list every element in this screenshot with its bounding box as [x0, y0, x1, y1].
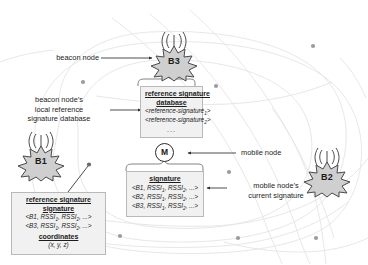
- refsig-row: <B3, RSSI1, RSSI2, ...>: [16, 222, 101, 231]
- signature-row: <B2, RSSI1, RSSI2, ...>: [131, 193, 199, 202]
- beacon-node-b2[interactable]: B2: [300, 148, 354, 198]
- annotation-beacon-node: beacon node: [0, 53, 99, 63]
- refsig-header: reference signature: [16, 196, 101, 205]
- mobile-node-m[interactable]: M: [155, 143, 174, 162]
- beacon-node-b3[interactable]: B3: [147, 32, 201, 82]
- annotation-beacon-database: beacon node’s local reference signature …: [10, 95, 108, 124]
- connector-reference-signature: [68, 166, 88, 192]
- diagram-canvas: B3 B1: [0, 0, 368, 265]
- signature-header: signature: [131, 175, 199, 184]
- annotation-beacon-database-line2: local reference: [10, 105, 108, 115]
- star-burst-b1: [14, 145, 68, 182]
- rsdb-ellipsis: ...: [145, 126, 198, 133]
- rsdb-header-line2: database: [145, 99, 198, 108]
- refsig-row: <B1, RSSI1, RSSI2, ...>: [16, 213, 101, 222]
- annotation-beacon-database-line3: signature database: [10, 114, 108, 124]
- signature-row: <B1, RSSI1, RSSI2, ...>: [131, 184, 199, 193]
- beacon-node-b1[interactable]: B1: [14, 132, 68, 182]
- star-burst-b3: [147, 45, 201, 82]
- rsdb-entry: <reference-signature2>: [145, 116, 198, 125]
- refsig-coordinates-header: coordinates: [16, 233, 101, 242]
- rsdb-header-line1: reference signature: [145, 90, 198, 99]
- mobile-node-label: M: [156, 144, 173, 161]
- reference-signature-database-box[interactable]: reference signature database <reference-…: [140, 86, 203, 138]
- mobile-signature-box[interactable]: signature <B1, RSSI1, RSSI2, ...> <B2, R…: [126, 171, 204, 217]
- refsig-coordinates-value: (x, y, z): [16, 241, 101, 249]
- signature-row: <B3, RSSI1, RSSI2, ...>: [131, 202, 199, 211]
- star-burst-b2: [300, 161, 354, 198]
- reference-signature-box[interactable]: reference signature signature <B1, RSSI1…: [11, 192, 106, 255]
- rsdb-entry: <reference-signature1>: [145, 107, 198, 116]
- annotation-beacon-database-line1: beacon node’s: [10, 95, 108, 105]
- refsig-signature-header: signature: [16, 205, 101, 214]
